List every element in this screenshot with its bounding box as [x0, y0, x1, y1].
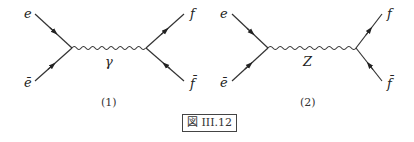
label-e-bar: ē: [220, 76, 228, 89]
fermion-arrow: [366, 30, 370, 35]
positron-arrow: [48, 65, 53, 69]
diagram-1: [35, 14, 184, 81]
label-e: e: [220, 7, 228, 20]
label-boson-z: Z: [303, 55, 312, 68]
electron-arrow: [247, 28, 252, 33]
positron-arrow: [245, 65, 250, 70]
fermion-arrow: [161, 30, 166, 34]
figure-caption: 図 III.12: [182, 114, 237, 132]
diagram-2-number: (2): [300, 97, 316, 109]
antifermion-arrow: [369, 65, 373, 70]
label-f: f: [387, 7, 392, 20]
diagram-2: [232, 14, 382, 81]
z-boson-propagator: [268, 47, 356, 50]
electron-arrow: [50, 28, 55, 33]
antifermion-arrow: [165, 65, 170, 69]
photon-propagator: [72, 47, 146, 50]
label-f-bar: f̄: [387, 77, 392, 90]
label-f-bar: f̄: [190, 77, 195, 90]
label-boson-gamma: γ: [105, 55, 113, 68]
positron-line: [35, 48, 72, 81]
diagram-1-number: (1): [101, 97, 117, 109]
label-f: f: [190, 7, 195, 20]
label-e-bar: ē: [24, 76, 32, 89]
label-e: e: [24, 7, 32, 20]
